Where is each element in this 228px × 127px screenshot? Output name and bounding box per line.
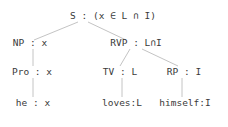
node-tv: TV : L [103, 66, 137, 77]
syntax-tree-diagram: S : (x ∈ L ∩ I) NP : x RVP : L∩I Pro : x… [0, 0, 228, 127]
node-loves: loves:L [102, 97, 142, 108]
node-np: NP : x [13, 37, 47, 48]
node-pro: Pro : x [12, 66, 52, 77]
node-rp: RP : I [167, 66, 201, 77]
edge-vp-tv [120, 49, 130, 66]
node-he: he : x [16, 97, 50, 108]
node-vp: RVP : L∩I [110, 37, 161, 48]
edge-vp-rp [142, 49, 178, 66]
node-s: S : (x ∈ L ∩ I) [70, 10, 156, 21]
node-himself: himself:I [159, 97, 210, 108]
